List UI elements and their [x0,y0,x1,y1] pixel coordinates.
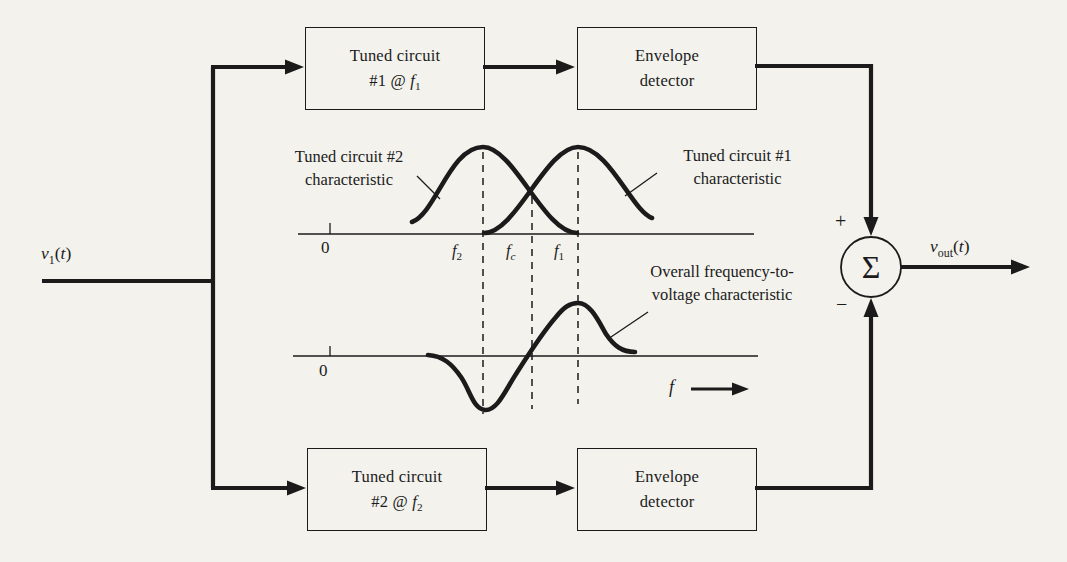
summer-plus-sign: + [835,210,846,233]
tuned-circuit-2-line1: Tuned circuit [352,465,442,490]
output-signal-label: vout(t) [930,236,970,257]
envelope-top-line2: detector [640,69,695,94]
tuned-circuit-1-box: Tuned circuit #1 @ f1 [305,27,485,110]
envelope-detector-bottom-box: Envelope detector [577,448,757,531]
sigma-symbol: Σ [841,237,901,297]
f1-tick-label: f1 [554,241,564,261]
tuned-circuit-1-characteristic-label: Tuned circuit #1 characteristic [655,145,820,191]
tuned-circuit-1-line1: Tuned circuit [350,44,440,69]
envelope-bottom-line1: Envelope [635,465,699,490]
tuned-circuit-2-line2: #2 @ f2 [371,490,423,515]
arrowhead-summer-plus [864,217,879,236]
tuned-circuit-2-box: Tuned circuit #2 @ f2 [307,448,487,531]
arrowhead-summer-minus [864,298,879,317]
fm-discriminator-block-diagram: Tuned circuit #1 @ f1 Envelope detector … [0,0,1067,562]
wire-envelope-top-to-summer [755,66,871,218]
tuned-circuit-2-characteristic-label: Tuned circuit #2 characteristic [270,146,428,192]
arrowhead-into-envelope-top [556,60,575,75]
envelope-top-line1: Envelope [635,44,699,69]
diagram-graphics [0,0,1067,562]
arrowhead-f-axis [732,383,749,396]
arrowhead-into-envelope-bottom [556,481,575,496]
arrowhead-output [1011,260,1030,275]
overall-characteristic-label: Overall frequency-to- voltage characteri… [618,261,826,307]
f2-tick-label: f2 [452,241,462,261]
upper-plot-zero-label: 0 [321,238,330,258]
pointer-overall-label [608,312,648,339]
wire-envelope-bottom-to-summer [755,316,871,488]
envelope-bottom-line2: detector [640,490,695,515]
tuned-circuit-1-curve [484,147,652,233]
f-axis-label: f [669,377,674,398]
arrowhead-into-tuned1 [285,60,304,75]
tuned-circuit-1-line2: #1 @ f1 [369,69,421,94]
pointer-tuned1-label [625,173,657,196]
input-signal-label: v1(t) [41,243,71,264]
fc-tick-label: fc [506,241,516,261]
lower-plot-zero-label: 0 [319,361,328,381]
arrowhead-into-tuned2 [287,481,306,496]
envelope-detector-top-box: Envelope detector [577,27,757,110]
